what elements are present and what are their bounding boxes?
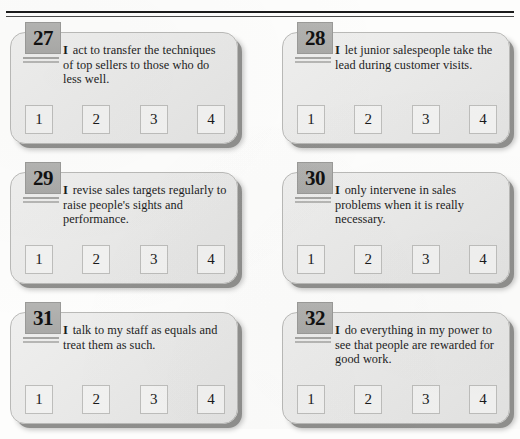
questionnaire-item-slot: 27I act to transfer the techniques of to… <box>0 26 272 166</box>
statement-text: talk to my staff as equals and treat the… <box>63 323 217 352</box>
rating-option-label: 3 <box>422 252 430 267</box>
questionnaire-item-card[interactable]: 29I revise sales targets regularly to ra… <box>10 172 238 284</box>
badge-underline-accent <box>295 57 331 64</box>
item-number-badge: 30 <box>297 162 333 194</box>
questionnaire-item-slot: 29I revise sales targets regularly to ra… <box>0 166 272 306</box>
questionnaire-item-slot: 31I talk to my staff as equals and treat… <box>0 306 272 439</box>
item-number-label: 31 <box>33 307 53 328</box>
rating-option[interactable]: 4 <box>197 105 225 134</box>
questionnaire-item-card[interactable]: 30I only intervene in sales problems whe… <box>282 172 510 284</box>
statement-text: revise sales targets regularly to raise … <box>63 183 226 226</box>
rating-scale: 1234 <box>25 105 225 134</box>
statement-text: let junior salespeople take the lead dur… <box>335 43 492 72</box>
rating-scale: 1234 <box>25 245 225 274</box>
item-statement: I revise sales targets regularly to rais… <box>63 183 227 227</box>
rating-option-label: 3 <box>150 392 158 407</box>
badge-underline-accent <box>295 197 331 204</box>
item-statement: I act to transfer the techniques of top … <box>63 43 227 87</box>
item-number-badge: 31 <box>25 302 61 334</box>
rating-option[interactable]: 4 <box>197 385 225 414</box>
item-number-badge: 28 <box>297 22 333 54</box>
item-number-label: 27 <box>33 27 53 48</box>
rating-option-label: 1 <box>307 112 315 127</box>
item-statement: I do everything in my power to see that … <box>335 323 499 367</box>
rating-option[interactable]: 1 <box>297 385 325 414</box>
item-number-badge: 32 <box>297 302 333 334</box>
item-statement: I talk to my staff as equals and treat t… <box>63 323 227 352</box>
item-number-badge: 29 <box>25 162 61 194</box>
rating-option-label: 1 <box>307 392 315 407</box>
top-divider-rule <box>6 11 514 18</box>
rating-option-label: 1 <box>35 252 43 267</box>
rating-option-label: 4 <box>479 392 487 407</box>
rating-option-label: 3 <box>150 252 158 267</box>
rating-option-label: 1 <box>35 112 43 127</box>
statement-text: only intervene in sales problems when it… <box>335 183 464 226</box>
rating-option[interactable]: 3 <box>140 385 168 414</box>
questionnaire-item-card[interactable]: 27I act to transfer the techniques of to… <box>10 32 238 144</box>
rating-option[interactable]: 1 <box>25 105 53 134</box>
rating-option[interactable]: 3 <box>412 385 440 414</box>
questionnaire-item-card[interactable]: 31I talk to my staff as equals and treat… <box>10 312 238 424</box>
questionnaire-item-card[interactable]: 32I do everything in my power to see tha… <box>282 312 510 424</box>
badge-underline-accent <box>23 197 59 204</box>
questionnaire-item-grid: 27I act to transfer the techniques of to… <box>0 26 520 439</box>
rating-option-label: 4 <box>479 252 487 267</box>
rating-option-label: 3 <box>422 112 430 127</box>
rating-option-label: 4 <box>207 392 215 407</box>
rating-option[interactable]: 1 <box>25 385 53 414</box>
rating-option-label: 2 <box>365 392 373 407</box>
rating-option-label: 2 <box>93 112 101 127</box>
rating-option-label: 2 <box>93 252 101 267</box>
rating-option[interactable]: 1 <box>297 245 325 274</box>
badge-underline-accent <box>295 337 331 344</box>
rating-option-label: 1 <box>307 252 315 267</box>
rating-option-label: 2 <box>365 252 373 267</box>
questionnaire-item-slot: 32I do everything in my power to see tha… <box>272 306 510 439</box>
rating-scale: 1234 <box>297 245 497 274</box>
rating-option[interactable]: 2 <box>82 245 110 274</box>
statement-text: act to transfer the techniques of top se… <box>63 43 216 86</box>
rating-option-label: 3 <box>422 392 430 407</box>
rating-scale: 1234 <box>297 385 497 414</box>
badge-underline-accent <box>23 57 59 64</box>
rating-option[interactable]: 1 <box>297 105 325 134</box>
rating-option-label: 2 <box>365 112 373 127</box>
item-number-label: 28 <box>305 27 325 48</box>
divider-line-thin <box>6 16 514 17</box>
rating-option[interactable]: 3 <box>412 105 440 134</box>
rating-option[interactable]: 4 <box>197 245 225 274</box>
rating-option-label: 1 <box>35 392 43 407</box>
item-number-label: 29 <box>33 167 53 188</box>
badge-underline-accent <box>23 337 59 344</box>
divider-line-thick <box>6 11 514 13</box>
item-statement: I let junior salespeople take the lead d… <box>335 43 499 72</box>
rating-option-label: 4 <box>207 112 215 127</box>
rating-option[interactable]: 1 <box>25 245 53 274</box>
questionnaire-item-slot: 30I only intervene in sales problems whe… <box>272 166 510 306</box>
questionnaire-item-card[interactable]: 28I let junior salespeople take the lead… <box>282 32 510 144</box>
rating-option-label: 2 <box>93 392 101 407</box>
rating-scale: 1234 <box>25 385 225 414</box>
rating-option[interactable]: 2 <box>354 245 382 274</box>
rating-option[interactable]: 2 <box>354 385 382 414</box>
rating-option-label: 4 <box>207 252 215 267</box>
item-number-label: 32 <box>305 307 325 328</box>
rating-option[interactable]: 2 <box>82 385 110 414</box>
statement-text: do everything in my power to see that pe… <box>335 323 494 366</box>
rating-option-label: 3 <box>150 112 158 127</box>
item-statement: I only intervene in sales problems when … <box>335 183 499 227</box>
rating-option[interactable]: 2 <box>82 105 110 134</box>
rating-option-label: 4 <box>479 112 487 127</box>
rating-option[interactable]: 3 <box>140 245 168 274</box>
rating-option[interactable]: 4 <box>469 245 497 274</box>
rating-option[interactable]: 2 <box>354 105 382 134</box>
item-number-badge: 27 <box>25 22 61 54</box>
rating-scale: 1234 <box>297 105 497 134</box>
rating-option[interactable]: 3 <box>412 245 440 274</box>
rating-option[interactable]: 3 <box>140 105 168 134</box>
rating-option[interactable]: 4 <box>469 105 497 134</box>
rating-option[interactable]: 4 <box>469 385 497 414</box>
item-number-label: 30 <box>305 167 325 188</box>
questionnaire-item-slot: 28I let junior salespeople take the lead… <box>272 26 510 166</box>
